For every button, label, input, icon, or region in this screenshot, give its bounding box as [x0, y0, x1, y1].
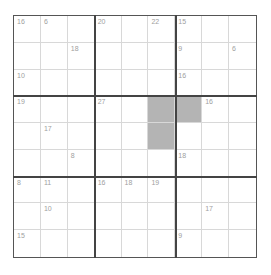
sudoku-cell[interactable]: 9 — [175, 230, 202, 257]
sudoku-cell[interactable]: 18 — [68, 43, 95, 70]
cage-sum: 15 — [178, 18, 186, 25]
sudoku-cell[interactable] — [68, 70, 95, 97]
cage-sum: 18 — [178, 152, 186, 159]
sudoku-cell[interactable] — [14, 150, 41, 177]
sudoku-cell[interactable] — [41, 230, 68, 257]
sudoku-cell[interactable] — [68, 123, 95, 150]
sudoku-cell[interactable] — [41, 96, 68, 123]
cage-sum: 19 — [151, 179, 159, 186]
sudoku-cell[interactable] — [122, 16, 149, 43]
sudoku-cell[interactable] — [175, 177, 202, 204]
sudoku-cell[interactable] — [148, 150, 175, 177]
sudoku-cell[interactable]: 6 — [41, 16, 68, 43]
sudoku-cell[interactable] — [148, 123, 175, 150]
sudoku-cell[interactable]: 19 — [14, 96, 41, 123]
sudoku-cell[interactable] — [175, 203, 202, 230]
sudoku-cell[interactable] — [202, 43, 229, 70]
cage-sum: 22 — [151, 18, 159, 25]
sudoku-cell[interactable]: 15 — [14, 230, 41, 257]
sudoku-cell[interactable]: 20 — [95, 16, 122, 43]
sudoku-cell[interactable] — [229, 230, 256, 257]
cage-sum: 6 — [44, 18, 48, 25]
sudoku-cell[interactable] — [68, 230, 95, 257]
sudoku-cell[interactable] — [122, 96, 149, 123]
sudoku-cell[interactable] — [95, 150, 122, 177]
cage-sum: 8 — [71, 152, 75, 159]
sudoku-cell[interactable] — [14, 43, 41, 70]
sudoku-cell[interactable] — [122, 43, 149, 70]
sudoku-cell[interactable]: 27 — [95, 96, 122, 123]
sudoku-cell[interactable]: 16 — [202, 96, 229, 123]
sudoku-cell[interactable] — [229, 16, 256, 43]
sudoku-cell[interactable] — [202, 230, 229, 257]
sudoku-cell[interactable] — [95, 203, 122, 230]
sudoku-cell[interactable] — [68, 203, 95, 230]
sudoku-cell[interactable]: 11 — [41, 177, 68, 204]
sudoku-cell[interactable]: 17 — [41, 123, 68, 150]
sudoku-cell[interactable] — [175, 123, 202, 150]
sudoku-cell[interactable] — [202, 70, 229, 97]
sudoku-cell[interactable] — [229, 177, 256, 204]
sudoku-cell[interactable]: 8 — [68, 150, 95, 177]
sudoku-cell[interactable] — [95, 70, 122, 97]
sudoku-cell[interactable] — [68, 16, 95, 43]
cage-sum: 17 — [205, 205, 213, 212]
sudoku-cell[interactable]: 9 — [175, 43, 202, 70]
sudoku-cell[interactable]: 8 — [14, 177, 41, 204]
sudoku-cell[interactable] — [202, 150, 229, 177]
sudoku-cell[interactable]: 16 — [175, 70, 202, 97]
cage-sum: 20 — [98, 18, 106, 25]
sudoku-cell[interactable] — [41, 150, 68, 177]
sudoku-cell[interactable] — [229, 203, 256, 230]
sudoku-cell[interactable] — [122, 123, 149, 150]
sudoku-cell[interactable] — [175, 96, 202, 123]
sudoku-cell[interactable] — [68, 177, 95, 204]
sudoku-cell[interactable]: 18 — [122, 177, 149, 204]
sudoku-cell[interactable]: 10 — [41, 203, 68, 230]
sudoku-cell[interactable] — [68, 96, 95, 123]
box-divider — [94, 15, 96, 258]
sudoku-cell[interactable] — [202, 16, 229, 43]
sudoku-cell[interactable] — [95, 123, 122, 150]
cage-sum: 15 — [17, 232, 25, 239]
sudoku-cell[interactable] — [122, 203, 149, 230]
sudoku-cell[interactable] — [202, 177, 229, 204]
sudoku-cell[interactable]: 6 — [229, 43, 256, 70]
sudoku-cell[interactable] — [122, 70, 149, 97]
sudoku-cell[interactable]: 16 — [14, 16, 41, 43]
sudoku-cell[interactable] — [122, 150, 149, 177]
cage-sum: 10 — [44, 205, 52, 212]
box-divider — [13, 95, 257, 97]
killer-sudoku-board: 1662022151896101619271617818811161819101… — [13, 15, 257, 258]
sudoku-cell[interactable] — [229, 123, 256, 150]
sudoku-cell[interactable]: 22 — [148, 16, 175, 43]
sudoku-cell[interactable] — [229, 96, 256, 123]
sudoku-cell[interactable] — [148, 203, 175, 230]
sudoku-cell[interactable]: 15 — [175, 16, 202, 43]
cage-sum: 8 — [17, 179, 21, 186]
sudoku-cell[interactable] — [95, 230, 122, 257]
cage-sum: 18 — [125, 179, 133, 186]
sudoku-cell[interactable] — [148, 230, 175, 257]
sudoku-cell[interactable] — [148, 96, 175, 123]
sudoku-cell[interactable]: 18 — [175, 150, 202, 177]
sudoku-cell[interactable] — [148, 70, 175, 97]
sudoku-cell[interactable] — [14, 123, 41, 150]
sudoku-cell[interactable] — [41, 43, 68, 70]
sudoku-cell[interactable] — [14, 203, 41, 230]
sudoku-cell[interactable] — [41, 70, 68, 97]
sudoku-cell[interactable]: 10 — [14, 70, 41, 97]
sudoku-cell[interactable]: 17 — [202, 203, 229, 230]
cage-sum: 10 — [17, 72, 25, 79]
cage-sum: 18 — [71, 45, 79, 52]
sudoku-cell[interactable] — [202, 123, 229, 150]
sudoku-cell[interactable]: 16 — [95, 177, 122, 204]
sudoku-cell[interactable] — [229, 70, 256, 97]
sudoku-cell[interactable] — [95, 43, 122, 70]
cage-sum: 6 — [232, 45, 236, 52]
cage-sum: 27 — [98, 98, 106, 105]
sudoku-cell[interactable] — [148, 43, 175, 70]
sudoku-cell[interactable] — [229, 150, 256, 177]
sudoku-cell[interactable]: 19 — [148, 177, 175, 204]
sudoku-cell[interactable] — [122, 230, 149, 257]
